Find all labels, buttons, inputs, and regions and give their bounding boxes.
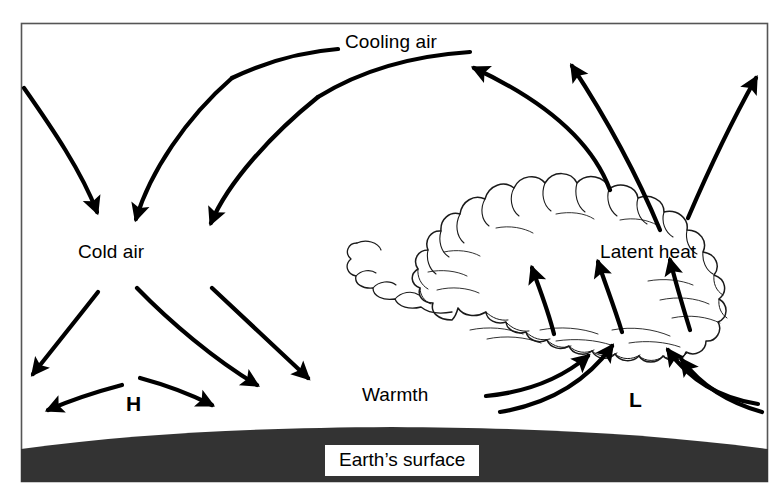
label-cold-air: Cold air [78, 241, 144, 263]
label-high-pressure: H [126, 392, 141, 416]
label-cooling-air: Cooling air [345, 31, 437, 53]
label-warmth: Warmth [362, 384, 428, 406]
label-low-pressure: L [629, 388, 642, 412]
label-earths-surface: Earth’s surface [325, 445, 479, 476]
label-latent-heat: Latent heat [600, 241, 696, 263]
diagram-figure: Cooling air Cold air Latent heat Warmth … [0, 0, 784, 504]
